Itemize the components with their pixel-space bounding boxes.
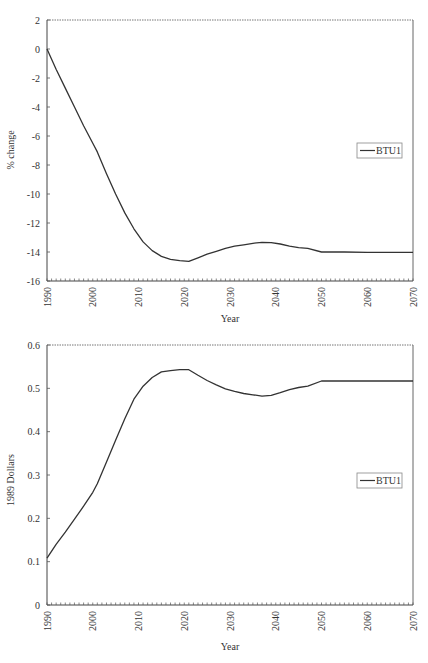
x-tick-label: 2040: [270, 611, 281, 631]
x-tick-label: 1990: [42, 611, 53, 631]
y-tick-label: -10: [27, 189, 40, 200]
y-tick-label: -14: [27, 247, 40, 258]
y-tick-label: -2: [32, 73, 40, 84]
y-tick-label: -8: [32, 160, 40, 171]
x-tick-label: 2010: [133, 287, 144, 307]
x-tick-label: 2040: [270, 287, 281, 307]
x-tick-label: 2070: [408, 611, 419, 631]
x-tick-label: 2060: [362, 287, 373, 307]
legend: BTU1: [357, 473, 402, 488]
series-line-btu1: [47, 370, 413, 559]
legend: BTU1: [357, 143, 402, 158]
x-tick-label: 2010: [133, 611, 144, 631]
y-tick-label: 0.3: [28, 470, 41, 481]
y-tick-label: 0.6: [28, 340, 41, 351]
x-tick-label: 2020: [179, 611, 190, 631]
y-tick-label: 0: [35, 600, 40, 611]
legend-label: BTU1: [376, 145, 401, 156]
y-tick-label: 0.2: [28, 513, 41, 524]
y-axis-title: % change: [5, 130, 16, 170]
y-tick-label: 0.5: [28, 383, 41, 394]
chart-1989-dollars-svg: 1990200020102020203020402050206020700.60…: [0, 330, 428, 663]
x-tick-label: 2060: [362, 611, 373, 631]
y-tick-label: -6: [32, 131, 40, 142]
chart-percent-change-svg: 19902000201020202030204020502060207020-2…: [0, 0, 428, 330]
x-tick-label: 2050: [316, 611, 327, 631]
x-tick-label: 2000: [87, 287, 98, 307]
x-tick-label: 2020: [179, 287, 190, 307]
y-tick-label: 0.4: [28, 426, 41, 437]
y-tick-label: 0: [35, 44, 40, 55]
chart-percent-change: 19902000201020202030204020502060207020-2…: [0, 0, 428, 330]
y-tick-label: -16: [27, 276, 40, 287]
legend-label: BTU1: [376, 475, 401, 486]
y-tick-label: -12: [27, 218, 40, 229]
x-tick-label: 2050: [316, 287, 327, 307]
chart-1989-dollars: 1990200020102020203020402050206020700.60…: [0, 330, 428, 663]
x-tick-label: 2070: [408, 287, 419, 307]
x-tick-label: 1990: [42, 287, 53, 307]
x-axis-title: Year: [221, 641, 240, 652]
y-tick-label: -4: [32, 102, 40, 113]
y-axis-title: 1989 Dollars: [5, 454, 16, 506]
x-axis-title: Year: [221, 313, 240, 324]
x-tick-label: 2030: [225, 287, 236, 307]
y-tick-label: 2: [35, 15, 40, 26]
x-tick-label: 2030: [225, 611, 236, 631]
y-tick-label: 0.1: [28, 556, 41, 567]
x-tick-label: 2000: [87, 611, 98, 631]
